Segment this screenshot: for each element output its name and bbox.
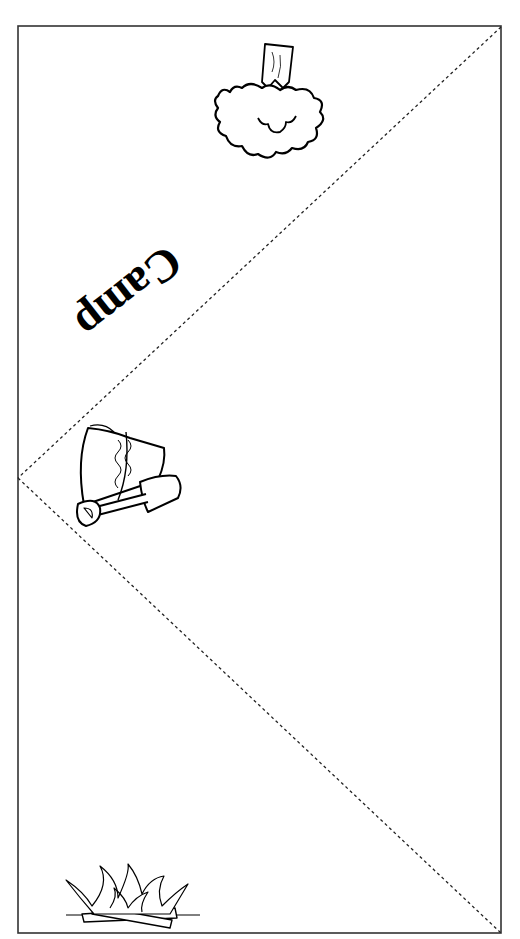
template-sheet: [0, 0, 520, 939]
